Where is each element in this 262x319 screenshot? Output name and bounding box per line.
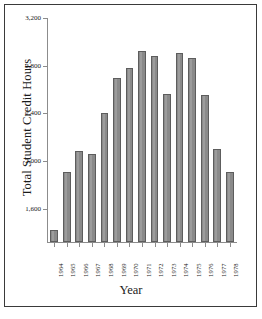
- y-axis-tick: [43, 161, 48, 162]
- x-axis-tick: [180, 243, 181, 247]
- bar-1973: [163, 94, 171, 242]
- y-axis-tick: [43, 18, 48, 19]
- y-axis-tick-label: 3,200: [1, 14, 41, 22]
- bar-1968: [101, 113, 109, 242]
- x-axis-tick-label: 1964: [57, 263, 64, 277]
- bar-1974: [176, 53, 184, 242]
- x-axis-tick-label: 1973: [170, 263, 177, 277]
- x-axis-tick-label: 1976: [207, 263, 214, 277]
- x-axis-tick: [117, 243, 118, 247]
- x-axis-tick-label: 1971: [145, 263, 152, 277]
- y-axis-tick: [43, 66, 48, 67]
- bar-1966: [75, 151, 83, 242]
- bar-1970: [126, 68, 134, 242]
- x-axis-tick-label: 1968: [107, 263, 114, 277]
- x-axis-tick: [217, 243, 218, 247]
- x-axis-tick: [205, 243, 206, 247]
- x-axis-tick: [92, 243, 93, 247]
- y-axis-tick-label: 2,800: [1, 62, 41, 70]
- x-axis-tick: [142, 243, 143, 247]
- y-axis-tick: [43, 113, 48, 114]
- y-axis-tick-labels: 1,6002,0002,4002,8003,200: [0, 0, 41, 319]
- x-axis-tick: [67, 243, 68, 247]
- bar-1967: [88, 154, 96, 242]
- x-axis-tick-label: 1970: [132, 263, 139, 277]
- x-axis-tick: [230, 243, 231, 247]
- x-axis-tick-label: 1969: [120, 263, 127, 277]
- x-axis-tick: [167, 243, 168, 247]
- x-axis-tick-label: 1972: [157, 263, 164, 277]
- x-axis-tick-label: 1965: [69, 263, 76, 277]
- y-axis-tick: [43, 209, 48, 210]
- x-axis-tick-label: 1978: [232, 263, 239, 277]
- y-axis-tick-label: 2,000: [1, 157, 41, 165]
- x-axis-tick: [54, 243, 55, 247]
- x-axis-tick-label: 1966: [82, 263, 89, 277]
- x-axis-tick-label: 1977: [220, 263, 227, 277]
- x-axis-title: Year: [0, 283, 262, 298]
- y-axis-tick-label: 1,600: [1, 205, 41, 213]
- bar-1969: [113, 78, 121, 242]
- x-axis-tick-label: 1967: [94, 263, 101, 277]
- bar-1976: [201, 95, 209, 242]
- bar-1972: [151, 56, 159, 242]
- x-axis-tick: [192, 243, 193, 247]
- x-axis-tick: [155, 243, 156, 247]
- plot-area: [48, 18, 236, 242]
- bar-1971: [138, 51, 146, 242]
- bar-1977: [213, 149, 221, 242]
- bar-1965: [63, 172, 71, 242]
- chart-figure: Total Student Credit Hours 1,6002,0002,4…: [0, 0, 262, 319]
- x-axis-tick: [129, 243, 130, 247]
- bar-1975: [188, 58, 196, 242]
- bar-1978: [226, 172, 234, 242]
- bar-1964: [50, 230, 58, 242]
- x-axis-tick: [79, 243, 80, 247]
- x-axis-tick-label: 1975: [195, 263, 202, 277]
- x-axis-tick: [104, 243, 105, 247]
- x-axis-tick-label: 1974: [182, 263, 189, 277]
- y-axis-tick-label: 2,400: [1, 109, 41, 117]
